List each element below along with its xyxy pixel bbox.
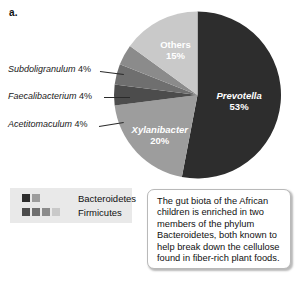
legend-swatch-firmicutes-1 — [32, 208, 40, 216]
pie-slice-pct-others: 15% — [166, 50, 186, 61]
legend-swatches-firmicutes — [22, 208, 74, 216]
pie-slice-name-others: Others — [160, 39, 191, 50]
callout-name-acetitomaculum: Acetitomaculum — [8, 119, 72, 129]
callout-faecalibacterium: Faecalibacterium 4% — [8, 91, 92, 101]
legend-swatch-bacteroidetes-0 — [22, 194, 30, 202]
legend-swatch-firmicutes-3 — [52, 208, 60, 216]
pie-slice-pct-xylanibacter: 20% — [150, 135, 170, 146]
callout-pct-subdoligranulum: 4% — [78, 64, 91, 74]
leader-line-faecalibacterium — [104, 97, 130, 98]
legend-swatch-firmicutes-2 — [42, 208, 50, 216]
legend-label-bacteroidetes: Bacteroidetes — [78, 193, 136, 204]
callout-subdoligranulum: Subdoligranulum 4% — [8, 64, 91, 74]
callout-pct-acetitomaculum: 4% — [75, 119, 88, 129]
pie-slice-pct-prevotella: 53% — [230, 101, 250, 112]
figure-panel: a. Prevotella53%Xylanibacter20%Others15%… — [0, 0, 304, 283]
callout-pct-faecalibacterium: 4% — [79, 91, 92, 101]
legend-row-bacteroidetes: Bacteroidetes — [22, 192, 136, 204]
legend-label-firmicutes: Firmicutes — [78, 207, 122, 218]
caption-box: The gut biota of the African children is… — [147, 189, 291, 269]
pie-slice-name-prevotella: Prevotella — [216, 90, 261, 101]
legend-swatch-bacteroidetes-1 — [32, 194, 40, 202]
pie-slice-name-xylanibacter: Xylanibacter — [131, 124, 190, 135]
legend-swatch-firmicutes-0 — [22, 208, 30, 216]
legend: Bacteroidetes Firmicutes — [10, 188, 132, 223]
callout-name-subdoligranulum: Subdoligranulum — [8, 64, 76, 74]
callout-name-faecalibacterium: Faecalibacterium — [8, 91, 77, 101]
legend-swatches-bacteroidetes — [22, 194, 74, 202]
legend-row-firmicutes: Firmicutes — [22, 206, 122, 218]
caption-text: The gut biota of the African children is… — [157, 196, 282, 264]
pie-chart: Prevotella53%Xylanibacter20%Others15% Su… — [0, 0, 304, 190]
callout-acetitomaculum: Acetitomaculum 4% — [8, 119, 88, 129]
